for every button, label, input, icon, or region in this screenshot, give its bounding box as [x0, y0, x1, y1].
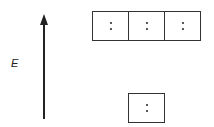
- energy-axis-label: E: [11, 57, 18, 69]
- electron-dot: [182, 28, 184, 30]
- orbital-box: [92, 11, 129, 41]
- arrow-up-icon: [40, 14, 48, 25]
- lower-energy-level: [128, 93, 165, 123]
- orbital-box: [128, 93, 165, 123]
- electron-dot: [146, 28, 148, 30]
- orbital-box: [164, 11, 201, 41]
- electron-dot: [110, 28, 112, 30]
- electron-dot: [146, 104, 148, 106]
- electron-pair: [146, 104, 148, 112]
- electron-dot: [182, 22, 184, 24]
- orbital-box: [128, 11, 165, 41]
- electron-dot: [146, 22, 148, 24]
- electron-dot: [146, 110, 148, 112]
- energy-arrow-shaft: [43, 22, 45, 119]
- electron-pair: [182, 22, 184, 30]
- electron-pair: [146, 22, 148, 30]
- upper-energy-level: [92, 11, 201, 41]
- electron-dot: [110, 22, 112, 24]
- electron-pair: [110, 22, 112, 30]
